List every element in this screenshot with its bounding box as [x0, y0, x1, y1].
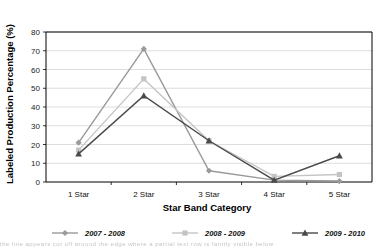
data-point-marker — [140, 92, 147, 98]
legend-label: 2007 - 2008 — [84, 229, 126, 238]
y-tick-label: 0 — [36, 178, 41, 187]
x-category-label: 4 Star — [264, 190, 286, 199]
chart-figure: 01020304050607080 1 Star2 Star3 Star4 St… — [0, 0, 389, 250]
data-point-marker — [337, 172, 342, 177]
legend-item[interactable]: 2008 - 2009 — [172, 229, 246, 238]
y-tick-labels-group: 01020304050607080 — [31, 28, 40, 187]
series-line — [79, 49, 340, 181]
data-series — [76, 76, 342, 179]
y-tick-label: 30 — [31, 122, 40, 131]
gridlines-group — [46, 32, 372, 163]
x-category-label: 5 Star — [329, 190, 351, 199]
x-category-label: 3 Star — [198, 190, 220, 199]
data-point-marker — [206, 168, 212, 174]
data-point-marker — [336, 152, 343, 158]
legend-item[interactable]: 2007 - 2008 — [52, 229, 126, 238]
y-tick-label: 70 — [31, 47, 40, 56]
y-tick-label: 20 — [31, 141, 40, 150]
data-point-marker — [336, 178, 342, 184]
y-tick-label: 60 — [31, 66, 40, 75]
x-axis-title: Star Band Category — [163, 202, 252, 213]
legend-label: 2008 - 2009 — [204, 229, 246, 238]
chart-legend: 2007 - 20082008 - 20092009 - 2010 — [52, 229, 366, 238]
series-line — [79, 79, 340, 177]
y-axis-title: Labeled Production Percentage (%) — [4, 24, 15, 184]
square-marker-icon — [182, 230, 187, 235]
x-category-label: 2 Star — [133, 190, 155, 199]
y-tick-label: 40 — [31, 103, 40, 112]
line-chart: 01020304050607080 1 Star2 Star3 Star4 St… — [0, 0, 389, 250]
y-tick-label: 10 — [31, 159, 40, 168]
legend-label: 2009 - 2010 — [324, 229, 366, 238]
page-bleed-text: the line appears cut off around the edge… — [0, 241, 389, 247]
page-bleed-artifact: the line appears cut off around the edge… — [0, 241, 389, 250]
diamond-marker-icon — [62, 230, 68, 236]
data-point-marker — [141, 76, 146, 81]
x-tick-labels-group: 1 Star2 Star3 Star4 Star5 Star — [68, 190, 350, 199]
y-tick-label: 50 — [31, 84, 40, 93]
legend-item[interactable]: 2009 - 2010 — [292, 229, 366, 238]
x-category-label: 1 Star — [68, 190, 90, 199]
y-tick-label: 80 — [31, 28, 40, 37]
